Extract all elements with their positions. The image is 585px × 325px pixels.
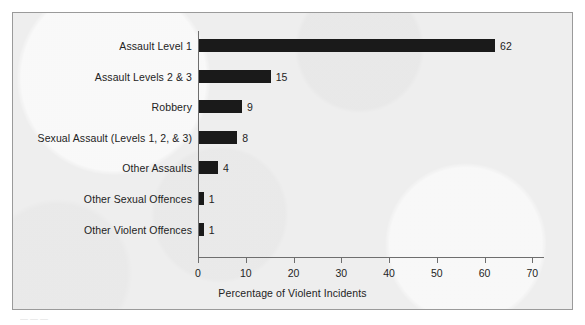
category-label: Assault Level 1 [13, 40, 192, 53]
bar-value-label: 8 [242, 132, 248, 145]
bar [199, 39, 495, 52]
x-tick-30 [341, 258, 342, 263]
category-label: Other Violent Offences [13, 224, 192, 237]
caption-fragment: ——— [20, 314, 50, 323]
x-axis-line [198, 257, 544, 258]
x-tick-label-30: 30 [335, 267, 347, 279]
x-tick-label-40: 40 [383, 267, 395, 279]
category-label: Robbery [13, 101, 192, 114]
bar [199, 131, 237, 144]
chart-frame: 010203040506070 Assault Level 1Assault L… [12, 12, 573, 310]
category-label: Other Assaults [13, 162, 192, 175]
x-tick-label-70: 70 [526, 267, 538, 279]
bar [199, 161, 218, 174]
x-tick-20 [294, 258, 295, 263]
bar-value-label: 15 [276, 71, 288, 84]
x-tick-70 [532, 258, 533, 263]
bar-value-label: 62 [500, 40, 512, 53]
x-tick-label-10: 10 [240, 267, 252, 279]
x-tick-40 [389, 258, 390, 263]
x-tick-0 [198, 258, 199, 263]
x-tick-50 [437, 258, 438, 263]
x-tick-10 [246, 258, 247, 263]
category-label: Assault Levels 2 & 3 [13, 71, 192, 84]
bar-value-label: 9 [247, 101, 253, 114]
bar [199, 223, 204, 236]
bar [199, 70, 271, 83]
x-tick-label-50: 50 [431, 267, 443, 279]
bar-value-label: 1 [209, 193, 215, 206]
x-axis-title: Percentage of Violent Incidents [13, 287, 572, 299]
bar-value-label: 1 [209, 224, 215, 237]
bar [199, 100, 242, 113]
category-label: Sexual Assault (Levels 1, 2, & 3) [13, 132, 192, 145]
plot-area: 010203040506070 Assault Level 1Assault L… [13, 13, 572, 309]
figure-container: 010203040506070 Assault Level 1Assault L… [0, 0, 585, 325]
x-tick-60 [485, 258, 486, 263]
x-tick-label-0: 0 [195, 267, 201, 279]
bar-value-label: 4 [223, 162, 229, 175]
bar [199, 192, 204, 205]
category-label: Other Sexual Offences [13, 193, 192, 206]
x-tick-label-20: 20 [288, 267, 300, 279]
x-tick-label-60: 60 [479, 267, 491, 279]
